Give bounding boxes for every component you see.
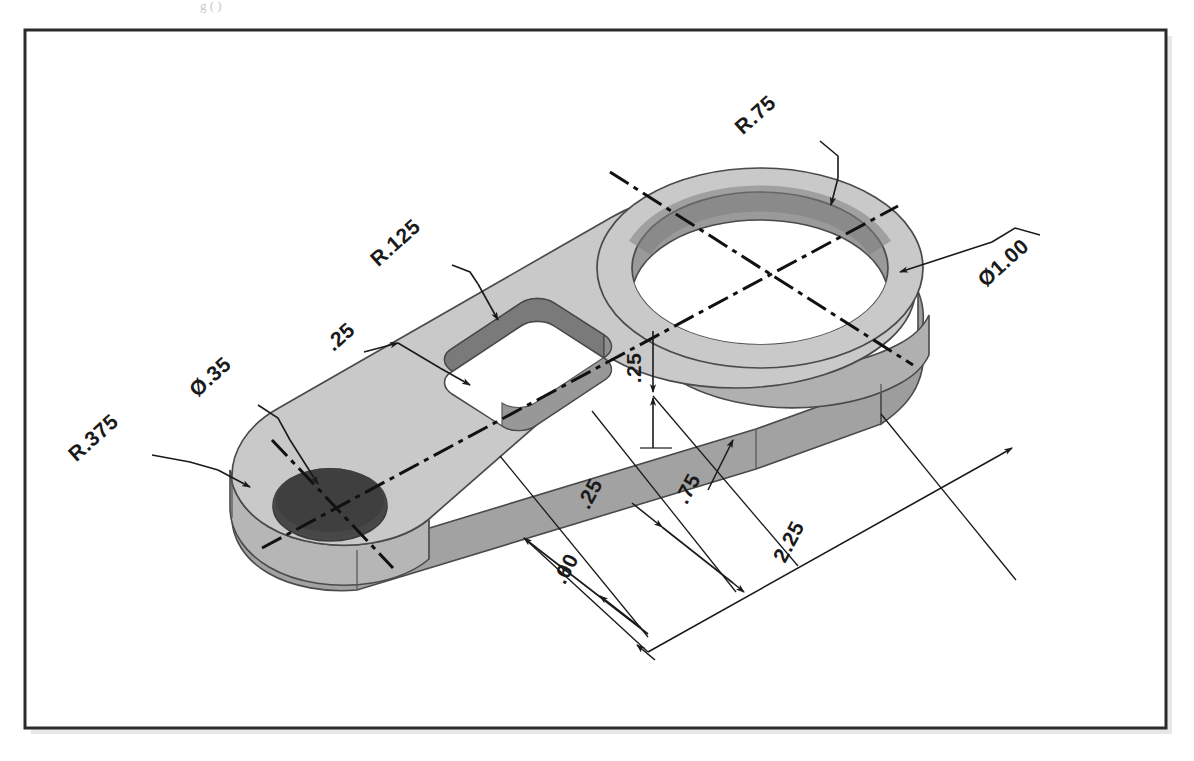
drawing-sheet: g ( ) xyxy=(0,0,1194,761)
isometric-part-drawing: g ( ) xyxy=(0,0,1194,761)
small-boss-top xyxy=(273,468,387,541)
dim-label-thickness: .25 xyxy=(622,353,645,384)
page-header-fragment: g ( ) xyxy=(200,0,222,13)
